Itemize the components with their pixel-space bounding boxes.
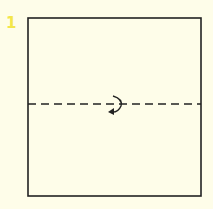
origami-diagram xyxy=(0,0,213,209)
paper-square xyxy=(28,18,201,196)
rotate-arrow-icon xyxy=(108,96,121,115)
